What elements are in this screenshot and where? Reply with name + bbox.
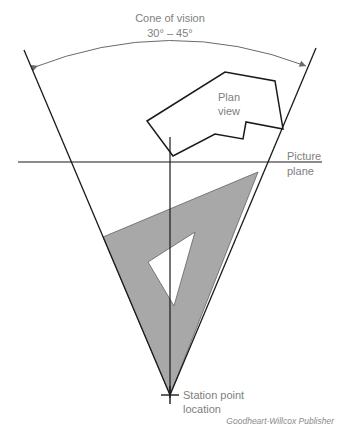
publisher-credit: Goodheart-Willcox Publisher (226, 416, 335, 426)
plan-view-label-line1: Plan (218, 91, 240, 103)
station-point-label-line2: location (183, 403, 221, 415)
plan-view-outline (147, 72, 283, 156)
cone-of-vision-title: Cone of vision (135, 12, 205, 24)
picture-plane-label-line1: Picture (287, 150, 321, 162)
cone-of-vision-arc-arrow (32, 40, 306, 68)
plan-view-label-line2: view (218, 105, 240, 117)
station-point-label-line1: Station point (183, 389, 244, 401)
station-point-marker-icon (161, 386, 179, 404)
cone-of-vision-angle-range: 30° – 45° (147, 27, 193, 39)
cone-of-vision-diagram: Cone of vision 30° – 45° Plan view Pictu… (0, 0, 340, 430)
projected-shadow-band (103, 172, 258, 395)
picture-plane-label-line2: plane (287, 165, 314, 177)
diagram-canvas: Cone of vision 30° – 45° Plan view Pictu… (0, 0, 340, 430)
